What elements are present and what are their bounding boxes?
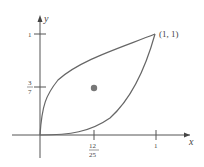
point-label: (1, 1) — [159, 29, 179, 39]
x-axis-label: x — [188, 136, 194, 147]
centroid-point — [91, 85, 97, 91]
y-tick-den: 7 — [28, 88, 32, 96]
y-tick-num: 3 — [28, 79, 32, 87]
lower-curve — [40, 34, 155, 135]
x-tick-1-label: 1 — [154, 142, 158, 150]
x-tick-den: 25 — [89, 151, 97, 159]
upper-curve — [40, 34, 155, 135]
y-tick-1-label: 1 — [28, 31, 32, 39]
chart-svg: y x (1, 1) 1 3 7 12 25 1 — [0, 0, 204, 167]
x-tick-num: 12 — [89, 142, 97, 150]
y-axis-label: y — [43, 13, 49, 24]
y-arrow-icon — [38, 15, 43, 22]
chart: y x (1, 1) 1 3 7 12 25 1 — [0, 0, 204, 167]
